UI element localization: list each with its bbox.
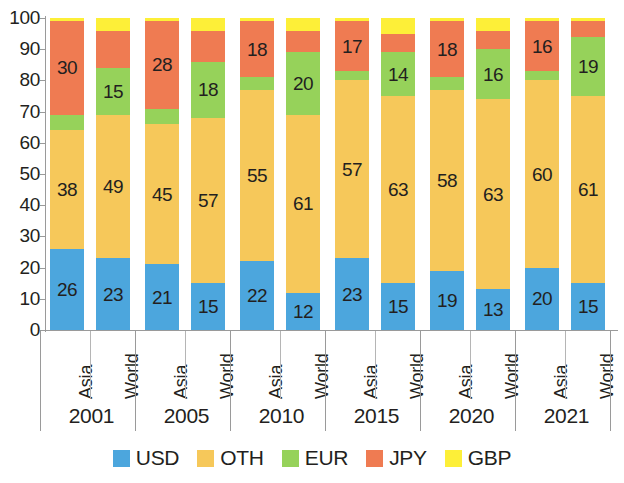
bar-segment-jpy[interactable]: [191, 31, 225, 62]
bar-segment-jpy[interactable]: 17: [335, 21, 369, 71]
bar-segment-oth[interactable]: 38: [50, 130, 84, 249]
stacked-bar[interactable]: 156314: [381, 18, 415, 330]
stacked-bar[interactable]: 136316: [476, 18, 510, 330]
bar-segment-eur[interactable]: [525, 71, 559, 80]
bar-segment-usd[interactable]: 20: [525, 268, 559, 330]
bar-segment-gbp[interactable]: [50, 18, 84, 21]
stacked-bar[interactable]: 263830: [50, 18, 84, 330]
legend-item-usd[interactable]: USD: [113, 446, 179, 470]
bar-segment-jpy[interactable]: [476, 31, 510, 50]
bar-segment-usd[interactable]: 26: [50, 249, 84, 330]
category-label-asia: Asia: [456, 365, 477, 399]
bar-segment-gbp[interactable]: [571, 18, 605, 21]
bar-segment-usd[interactable]: 15: [571, 283, 605, 330]
axis-separator-major: [230, 331, 231, 431]
bar-segment-value: 63: [483, 185, 503, 204]
bar-segment-gbp[interactable]: [525, 18, 559, 21]
bar-segment-gbp[interactable]: [286, 18, 320, 30]
stacked-bar[interactable]: 225518: [240, 18, 274, 330]
bar-segment-usd[interactable]: 23: [335, 258, 369, 330]
bar-segment-usd[interactable]: 21: [145, 264, 179, 330]
legend-item-gbp[interactable]: GBP: [445, 446, 511, 470]
bar-segment-oth[interactable]: 58: [430, 90, 464, 271]
stacked-bar[interactable]: 235717: [335, 18, 369, 330]
bar-segment-oth[interactable]: 63: [381, 96, 415, 283]
bar-segment-oth[interactable]: 49: [96, 115, 130, 259]
bar-segment-value: 15: [103, 82, 123, 101]
bar-segment-gbp[interactable]: [430, 18, 464, 21]
bar-segment-gbp[interactable]: [381, 18, 415, 34]
bar-segment-eur[interactable]: 15: [96, 68, 130, 115]
stacked-bar[interactable]: 155718: [191, 18, 225, 330]
bar-segment-gbp[interactable]: [240, 18, 274, 21]
bar-segment-usd[interactable]: 19: [430, 271, 464, 330]
bar-segment-eur[interactable]: 20: [286, 52, 320, 114]
bar-segment-usd[interactable]: 12: [286, 293, 320, 330]
bar-segment-value: 14: [388, 65, 408, 84]
bar-segment-value: 26: [57, 280, 77, 299]
legend-swatch-icon: [113, 450, 130, 467]
stacked-bar[interactable]: 195818: [430, 18, 464, 330]
group-label-2005: 2005: [139, 404, 234, 428]
bar-segment-value: 57: [198, 191, 218, 210]
bar-segment-gbp[interactable]: [191, 18, 225, 30]
bar-segment-eur[interactable]: 14: [381, 52, 415, 96]
bar-segment-oth[interactable]: 63: [476, 99, 510, 289]
bar-segment-eur[interactable]: [50, 115, 84, 131]
stacked-bar[interactable]: 156119: [571, 18, 605, 330]
bar-segment-jpy[interactable]: 28: [145, 21, 179, 108]
stacked-bar[interactable]: 126120: [286, 18, 320, 330]
bar-segment-eur[interactable]: [430, 77, 464, 89]
bar-segment-usd[interactable]: 13: [476, 289, 510, 330]
legend-item-oth[interactable]: OTH: [197, 446, 263, 470]
bar-segment-jpy[interactable]: [286, 31, 320, 53]
bar-segment-value: 18: [198, 80, 218, 99]
bar-segment-jpy[interactable]: 30: [50, 21, 84, 115]
bar-segment-oth[interactable]: 45: [145, 124, 179, 264]
bar-segment-gbp[interactable]: [96, 18, 130, 30]
bar-segment-value: 45: [152, 185, 172, 204]
bar-segment-gbp[interactable]: [145, 18, 179, 21]
bar-segment-usd[interactable]: 22: [240, 261, 274, 330]
stacked-bar[interactable]: 234915: [96, 18, 130, 330]
category-label-world: World: [312, 353, 333, 399]
legend-swatch-icon: [197, 450, 214, 467]
bar-segment-eur[interactable]: [145, 109, 179, 125]
bar-segment-eur[interactable]: 19: [571, 37, 605, 96]
bar-segment-jpy[interactable]: [381, 34, 415, 53]
bar-segment-value: 21: [152, 288, 172, 307]
y-tick-label: 100: [0, 8, 40, 27]
bar-segment-jpy[interactable]: 18: [240, 21, 274, 77]
bar-segment-gbp[interactable]: [476, 18, 510, 30]
bar-segment-eur[interactable]: [240, 77, 274, 89]
bar-segment-oth[interactable]: 57: [191, 118, 225, 283]
bar-segment-oth[interactable]: 57: [335, 80, 369, 258]
axis-separator-minor: [375, 331, 376, 398]
bar-segment-oth[interactable]: 61: [571, 96, 605, 283]
bar-segment-usd[interactable]: 15: [381, 283, 415, 330]
bar-segment-value: 57: [342, 160, 362, 179]
legend-item-jpy[interactable]: JPY: [366, 446, 427, 470]
bar-segment-eur[interactable]: 16: [476, 49, 510, 99]
bar-segment-usd[interactable]: 15: [191, 283, 225, 330]
category-label-asia: Asia: [76, 365, 97, 399]
bar-segment-oth[interactable]: 55: [240, 90, 274, 262]
bar-segment-jpy[interactable]: [571, 21, 605, 37]
bar-segment-value: 30: [57, 58, 77, 77]
stacked-bar[interactable]: 206016: [525, 18, 559, 330]
stacked-bar[interactable]: 214528: [145, 18, 179, 330]
bar-segment-value: 23: [103, 285, 123, 304]
bar-segment-eur[interactable]: [335, 71, 369, 80]
bar-segment-jpy[interactable]: 16: [525, 21, 559, 71]
bar-segment-oth[interactable]: 60: [525, 80, 559, 267]
bar-segment-value: 13: [483, 300, 503, 319]
bar-segment-usd[interactable]: 23: [96, 258, 130, 330]
bar-segment-gbp[interactable]: [335, 18, 369, 21]
bar-segment-eur[interactable]: 18: [191, 62, 225, 118]
bar-segment-value: 63: [388, 180, 408, 199]
bar-segment-oth[interactable]: 61: [286, 115, 320, 293]
bar-segment-jpy[interactable]: [96, 31, 130, 68]
bar-segment-jpy[interactable]: 18: [430, 21, 464, 77]
axis-separator-minor: [90, 331, 91, 398]
legend-item-eur[interactable]: EUR: [282, 446, 348, 470]
